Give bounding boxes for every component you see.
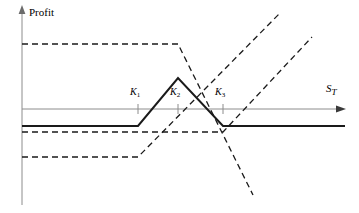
payoff-line-long-call-k1 (22, 13, 280, 157)
payoff-line-short-calls-k2 (22, 44, 253, 195)
strike-label-k2-symbol: K (170, 86, 177, 97)
x-axis-title: ST (326, 83, 337, 97)
payoff-line-long-call-k3 (22, 37, 312, 132)
butterfly-spread-profit-chart: Profit ST K1 K2 K3 (0, 0, 359, 213)
strike-label-k3-subscript: 3 (222, 91, 226, 99)
payoff-line-butterfly-net (22, 78, 345, 126)
x-axis-title-subscript: T (332, 87, 337, 97)
strike-label-k2: K2 (170, 87, 180, 97)
x-axis (22, 105, 346, 112)
strike-label-k1: K1 (130, 87, 140, 97)
y-axis-title: Profit (29, 7, 54, 18)
y-axis (19, 5, 26, 205)
strike-label-k1-symbol: K (130, 86, 137, 97)
strike-label-k3-symbol: K (215, 86, 222, 97)
strike-label-k2-subscript: 2 (177, 91, 181, 99)
chart-canvas (0, 0, 359, 213)
strike-label-k1-subscript: 1 (137, 91, 141, 99)
strike-label-k3: K3 (215, 87, 225, 97)
